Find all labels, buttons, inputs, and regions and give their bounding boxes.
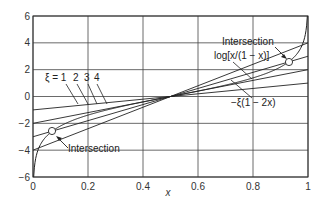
log-curve-label: log[x/(1 − x)] xyxy=(214,50,270,61)
xi-leader-lines xyxy=(66,84,107,104)
x-tick-label: 0.4 xyxy=(136,181,150,192)
xi-value-2: 2 xyxy=(73,72,79,83)
intersection-marker-bottom xyxy=(48,127,55,134)
x-tick-label: 0.6 xyxy=(191,181,205,192)
chart: 6420−2−4−6 00.20.40.60.81 x Intersection… xyxy=(0,0,326,200)
y-tick-label: −6 xyxy=(19,172,31,183)
x-tick-label: 0.2 xyxy=(81,181,95,192)
intersection-marker-top xyxy=(285,58,292,65)
xi-equals-label: ξ = 1 xyxy=(45,72,67,84)
arrowhead-top-icon xyxy=(281,54,287,59)
y-tick-label: −4 xyxy=(19,145,31,156)
intersection-label-bottom: Intersection xyxy=(68,143,120,154)
y-tick-labels: 6420−2−4−6 xyxy=(19,11,31,183)
intersection-label-top: Intersection xyxy=(222,36,274,47)
xi-value-4: 4 xyxy=(94,72,100,83)
x-tick-label: 1 xyxy=(305,181,311,192)
x-axis-label: x xyxy=(165,187,172,198)
y-tick-label: 6 xyxy=(24,11,30,22)
y-tick-label: −2 xyxy=(19,118,31,129)
x-tick-label: 0.8 xyxy=(246,181,260,192)
y-tick-label: 2 xyxy=(24,64,30,75)
arrowhead-bottom-icon xyxy=(56,136,62,141)
x-tick-label: 0 xyxy=(30,181,36,192)
xi-line-label: −ξ(1 − 2x) xyxy=(231,97,276,109)
x-tick-labels: 00.20.40.60.81 xyxy=(30,181,311,192)
xi-value-3: 3 xyxy=(84,72,90,83)
y-tick-label: 0 xyxy=(24,91,30,102)
log-label-leader xyxy=(233,62,252,79)
y-tick-label: 4 xyxy=(24,37,30,48)
